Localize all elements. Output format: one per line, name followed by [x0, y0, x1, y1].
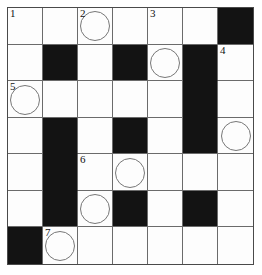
circle-marker-icon: [80, 194, 110, 224]
clue-number: 1: [10, 7, 16, 19]
crossword-cell[interactable]: 2: [78, 8, 113, 45]
crossword-cell[interactable]: 7: [43, 227, 78, 264]
crossword-cell[interactable]: [183, 8, 218, 45]
crossword-cell[interactable]: [113, 154, 148, 191]
crossword-block-cell: [183, 118, 218, 155]
crossword-block-cell: [113, 118, 148, 155]
crossword-cell[interactable]: [148, 191, 183, 228]
crossword-block-cell: [43, 45, 78, 82]
crossword-cell[interactable]: [218, 227, 253, 264]
crossword-block-cell: [43, 118, 78, 155]
clue-number: 5: [10, 80, 16, 92]
crossword-cell[interactable]: [8, 45, 43, 82]
crossword-block-cell: [183, 45, 218, 82]
clue-number: 6: [80, 153, 86, 165]
crossword-cell[interactable]: 5: [8, 81, 43, 118]
crossword-block-cell: [8, 227, 43, 264]
clue-number: 2: [80, 7, 86, 19]
crossword-block-cell: [43, 154, 78, 191]
crossword-cell[interactable]: [43, 8, 78, 45]
crossword-cell[interactable]: [183, 227, 218, 264]
crossword-block-cell: [218, 8, 253, 45]
circle-marker-icon: [10, 85, 40, 115]
circle-marker-icon: [115, 158, 145, 188]
crossword-cell[interactable]: [8, 154, 43, 191]
crossword-cell[interactable]: 3: [148, 8, 183, 45]
crossword-cell[interactable]: [78, 227, 113, 264]
crossword-cell[interactable]: 4: [218, 45, 253, 82]
circle-marker-icon: [80, 11, 110, 41]
circle-marker-icon: [45, 231, 75, 261]
crossword-cell[interactable]: [183, 154, 218, 191]
crossword-cell[interactable]: [218, 118, 253, 155]
crossword-cell[interactable]: [113, 8, 148, 45]
crossword-cell[interactable]: [148, 45, 183, 82]
crossword-cell[interactable]: [78, 191, 113, 228]
crossword-cell[interactable]: 1: [8, 8, 43, 45]
crossword-block-cell: [113, 45, 148, 82]
crossword-cell[interactable]: [8, 118, 43, 155]
crossword-cell[interactable]: [113, 227, 148, 264]
crossword-cell[interactable]: [78, 45, 113, 82]
crossword-grid[interactable]: 1234567: [8, 8, 253, 264]
crossword-cell[interactable]: [8, 191, 43, 228]
crossword-cell[interactable]: 6: [78, 154, 113, 191]
crossword-cell[interactable]: [113, 81, 148, 118]
crossword-block-cell: [43, 191, 78, 228]
crossword-cell[interactable]: [218, 191, 253, 228]
crossword-cell[interactable]: [148, 154, 183, 191]
crossword-frame: 1234567: [7, 7, 254, 265]
crossword-cell[interactable]: [78, 118, 113, 155]
crossword-block-cell: [183, 191, 218, 228]
clue-number: 3: [150, 7, 156, 19]
circle-marker-icon: [150, 48, 180, 78]
circle-marker-icon: [221, 121, 251, 151]
crossword-cell[interactable]: [43, 81, 78, 118]
screenshot-root: 1234567: [0, 0, 262, 275]
crossword-cell[interactable]: [78, 81, 113, 118]
clue-number: 4: [220, 44, 226, 56]
crossword-cell[interactable]: [218, 81, 253, 118]
clue-number: 7: [45, 226, 51, 238]
crossword-cell[interactable]: [148, 118, 183, 155]
crossword-cell[interactable]: [148, 227, 183, 264]
crossword-block-cell: [113, 191, 148, 228]
crossword-cell[interactable]: [218, 154, 253, 191]
crossword-block-cell: [183, 81, 218, 118]
crossword-cell[interactable]: [148, 81, 183, 118]
